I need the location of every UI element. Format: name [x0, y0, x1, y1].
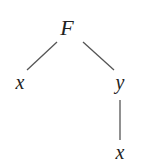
edge-root-right	[83, 42, 114, 70]
node-left-x: x	[16, 72, 25, 92]
node-root-F: F	[60, 17, 73, 39]
edge-root-left	[27, 42, 57, 70]
node-right-child-x: x	[116, 142, 125, 162]
node-right-y: y	[116, 72, 125, 92]
